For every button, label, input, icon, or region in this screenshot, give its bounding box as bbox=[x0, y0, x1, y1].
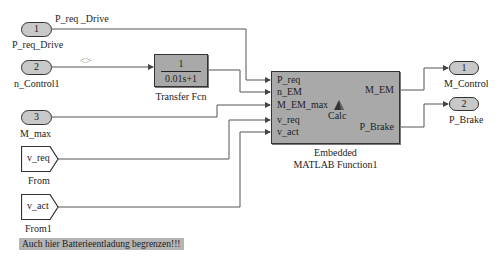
input-port-v-req: v_req bbox=[277, 114, 300, 126]
input-port-v-act: v_act bbox=[277, 126, 299, 138]
inport-2-number: 2 bbox=[34, 61, 39, 72]
inport-3-number: 3 bbox=[34, 111, 39, 122]
inport-2[interactable]: 2 bbox=[21, 60, 52, 75]
input-port-p-req: P_req bbox=[277, 74, 300, 86]
transfer-fcn-fraction-bar bbox=[161, 71, 201, 72]
embedded-function-center-label: Calc bbox=[328, 110, 346, 121]
wire-n-em bbox=[207, 70, 270, 92]
outport-2-name: P_Brake bbox=[449, 114, 483, 125]
from-block-v-req-name: From bbox=[28, 175, 50, 186]
inport-1-number: 1 bbox=[34, 23, 39, 34]
output-port-m-em: M_EM bbox=[365, 84, 394, 96]
inport-3[interactable]: 3 bbox=[21, 110, 52, 125]
outport-2[interactable]: 2 bbox=[449, 97, 479, 111]
transfer-fcn-numerator: 1 bbox=[155, 58, 207, 69]
inport-2-name: n_Control1 bbox=[14, 78, 60, 89]
outport-1-number: 1 bbox=[462, 62, 467, 73]
wire-m-em bbox=[400, 68, 448, 90]
input-port-m-em-max: M_EM_max bbox=[277, 99, 328, 111]
embedded-function-name-line1: Embedded bbox=[271, 147, 400, 158]
outport-2-number: 2 bbox=[462, 98, 467, 109]
from-block-v-req[interactable]: v_req bbox=[21, 146, 59, 172]
inport-1[interactable]: 1 bbox=[21, 22, 52, 37]
transfer-fcn-name: Transfer Fcn bbox=[154, 91, 208, 102]
embedded-function-name-line2: MATLAB Function1 bbox=[250, 159, 421, 170]
inport-3-name: M_max bbox=[20, 128, 51, 139]
from-block-v-act-name: From1 bbox=[25, 223, 52, 234]
from-tag-v-act: v_act bbox=[27, 200, 49, 211]
wire-p-brake bbox=[400, 104, 448, 127]
signal-wires bbox=[0, 0, 499, 263]
from-tag-v-req: v_req bbox=[27, 152, 50, 163]
transfer-fcn-block[interactable]: 1 0.01s+1 bbox=[154, 54, 208, 87]
outport-1-name: M_Control bbox=[444, 78, 488, 89]
signal-label-p-req-drive: P_req _Drive bbox=[55, 13, 109, 24]
wire-m-em-max bbox=[52, 105, 270, 117]
annotation-note[interactable]: Auch hier Batterieentladung begrenzen!!! bbox=[19, 238, 184, 250]
simulink-canvas: 1 P_req_Drive P_req _Drive 2 n_Control1 … bbox=[0, 0, 499, 263]
transfer-fcn-denominator: 0.01s+1 bbox=[155, 73, 207, 84]
wire-v-act bbox=[58, 132, 270, 207]
embedded-matlab-function-block[interactable]: P_req n_EM M_EM_max v_req v_act M_EM P_B… bbox=[271, 71, 400, 144]
outport-1[interactable]: 1 bbox=[449, 61, 479, 75]
inport-1-name: P_req_Drive bbox=[12, 39, 63, 50]
input-port-n-em: n_EM bbox=[277, 86, 302, 98]
output-port-p-brake: P_Brake bbox=[360, 121, 394, 133]
wire-v-req bbox=[58, 120, 270, 159]
from-block-v-act[interactable]: v_act bbox=[21, 194, 59, 220]
signal-label-bus: <> bbox=[80, 55, 91, 66]
